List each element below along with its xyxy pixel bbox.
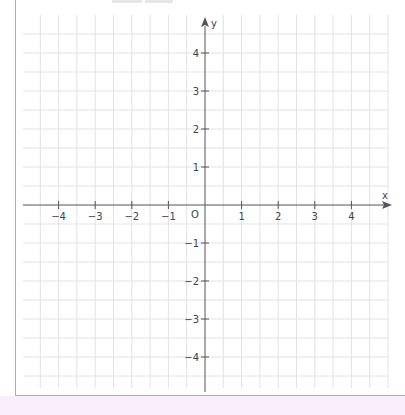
origin-label: O [191, 209, 199, 220]
y-tick-label: 4 [193, 48, 199, 59]
x-tick-label: 4 [348, 211, 354, 222]
x-tick-label: −3 [88, 211, 103, 222]
x-tick-label: −4 [51, 211, 66, 222]
axes [23, 17, 392, 392]
y-tick-label: −1 [184, 238, 199, 249]
coordinate-plane: −4−3−2−112344321−1−2−3−4 O x y [0, 0, 405, 415]
x-tick-label: −2 [124, 211, 139, 222]
y-tick-label: 2 [193, 124, 199, 135]
y-tick-label: −3 [184, 314, 199, 325]
x-tick-label: 3 [312, 211, 318, 222]
y-axis-arrow-icon [201, 17, 209, 27]
y-tick-label: 1 [193, 162, 199, 173]
x-axis-label: x [382, 190, 388, 201]
y-tick-label: 3 [193, 86, 199, 97]
y-axis-label: y [211, 18, 217, 29]
y-tick-label: −2 [184, 276, 199, 287]
x-tick-label: 1 [238, 211, 244, 222]
x-tick-label: 2 [275, 211, 281, 222]
x-tick-label: −1 [161, 211, 176, 222]
y-tick-label: −4 [184, 352, 199, 363]
